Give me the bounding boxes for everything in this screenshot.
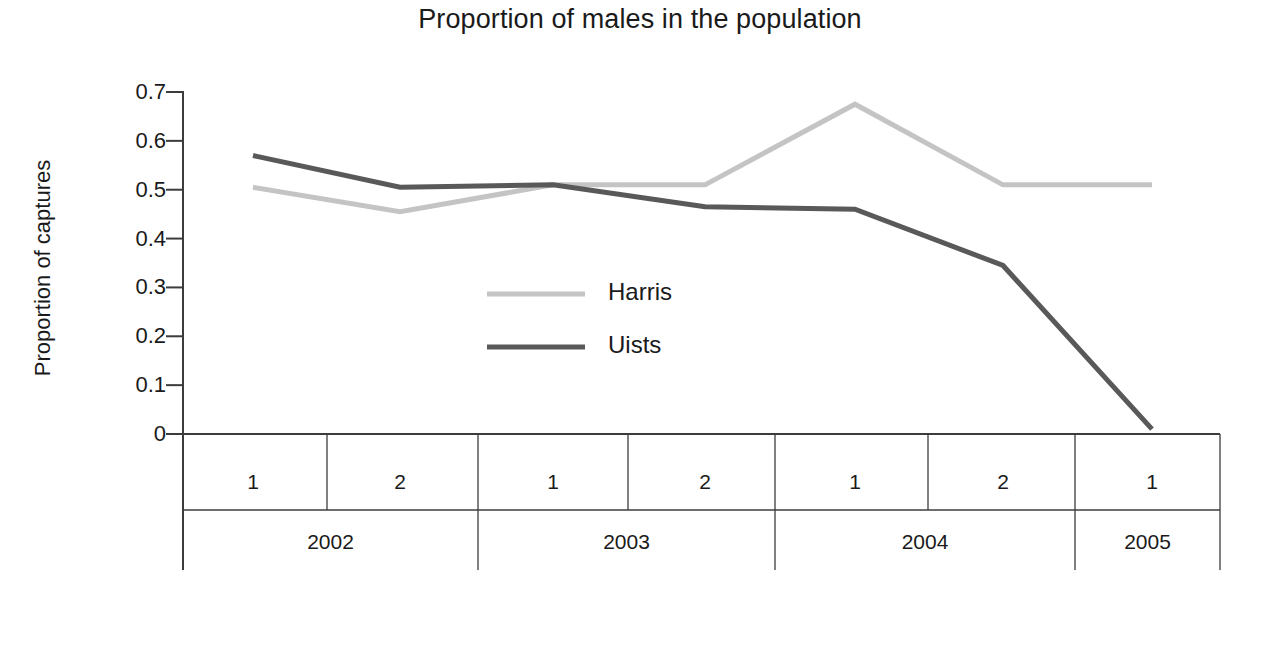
plot-area	[0, 0, 1280, 652]
x-axis-block-label: 1	[1112, 470, 1192, 494]
x-axis-year-label: 2004	[775, 530, 1075, 554]
legend-label-uists: Uists	[608, 331, 661, 359]
x-axis-block-label: 1	[213, 470, 293, 494]
data-series-lines	[253, 104, 1152, 429]
series-line-uists	[253, 156, 1152, 430]
x-axis-year-label: 2002	[183, 530, 478, 554]
chart-figure: Proportion of males in the population Pr…	[0, 0, 1280, 652]
x-axis-block-label: 2	[360, 470, 440, 494]
series-line-harris	[253, 104, 1152, 211]
x-axis-block-label: 2	[665, 470, 745, 494]
x-axis-year-label: 2005	[1075, 530, 1220, 554]
x-axis-block-label: 1	[815, 470, 895, 494]
legend-swatches	[487, 294, 585, 347]
x-axis-block-label: 2	[963, 470, 1043, 494]
x-axis-year-label: 2003	[478, 530, 775, 554]
x-axis-block-label: 1	[513, 470, 593, 494]
legend-label-harris: Harris	[608, 278, 672, 306]
